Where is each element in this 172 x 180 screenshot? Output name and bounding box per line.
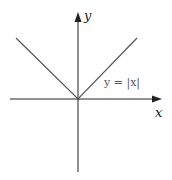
x-axis-label: x — [155, 105, 163, 120]
y-axis-label: y — [83, 8, 92, 23]
x-axis-arrow-icon — [152, 96, 162, 103]
equation-label: y = |x| — [103, 76, 140, 90]
graph-canvas: y x y = |x| — [0, 0, 172, 180]
y-axis-arrow-icon — [75, 12, 82, 22]
abs-value-curve — [16, 38, 137, 99]
